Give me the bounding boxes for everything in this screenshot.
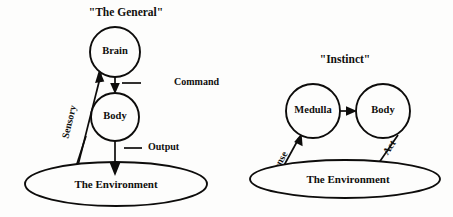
edge-sensory-label: Sensory [59,104,78,140]
body-left-label: Body [103,110,127,121]
node-body-left: Body [91,93,139,141]
edge-output-label: Output [148,141,180,152]
panel-instinct: "Instinct" Sense Act The Environment [250,53,440,198]
node-brain: Brain [90,27,140,77]
diagram-svg: "The General" Sensory The Environment [0,0,453,217]
node-medulla: Medulla [286,84,340,138]
environment-left-label: The Environment [74,178,158,190]
panel-general-title: "The General" [89,6,163,18]
diagram-canvas: "The General" Sensory The Environment [0,0,453,217]
edge-command-label: Command [174,76,219,87]
edge-command: Command [110,76,219,94]
brain-label: Brain [102,45,128,56]
panel-instinct-title: "Instinct" [320,53,370,65]
panel-general: "The General" Sensory The Environment [25,6,219,206]
body-right-label: Body [371,104,395,115]
node-body-right: Body [356,84,410,138]
environment-right-label: The Environment [306,173,390,185]
medulla-label: Medulla [294,104,332,115]
node-environment-right: The Environment [250,160,440,198]
edge-medulla-to-body [339,106,357,116]
edge-act-label: Act [380,137,398,156]
